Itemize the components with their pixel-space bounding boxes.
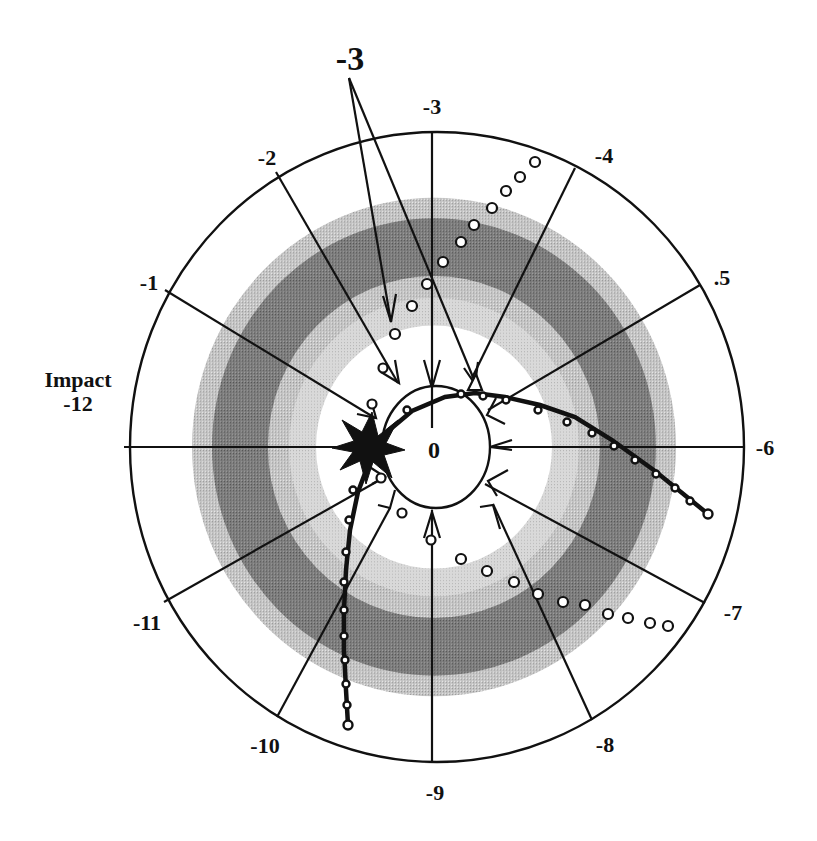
impact-value: -12 xyxy=(63,391,92,416)
spoke-label-2: -2 xyxy=(258,145,276,170)
spoke-label-6: -6 xyxy=(756,435,774,460)
spoke-label-4: -4 xyxy=(595,143,613,168)
spoke-label-11: -11 xyxy=(133,610,161,635)
spoke-label-3: -3 xyxy=(423,94,441,119)
spoke-label-5: .5 xyxy=(714,265,731,290)
spoke-label-9: -9 xyxy=(426,780,444,805)
polar-trajectory-diagram: -3 0 Impact -12 -3 -4 .5 -6 -7 -8 -9 -10… xyxy=(0,0,817,841)
spoke-label-7: -7 xyxy=(724,600,742,625)
spoke-label-10: -10 xyxy=(250,733,279,758)
impact-label: Impact xyxy=(44,367,112,392)
spoke-label-8: -8 xyxy=(596,732,614,757)
spoke-label-1: -1 xyxy=(140,270,158,295)
callout-label: -3 xyxy=(336,40,364,77)
center-label: 0 xyxy=(428,437,440,463)
